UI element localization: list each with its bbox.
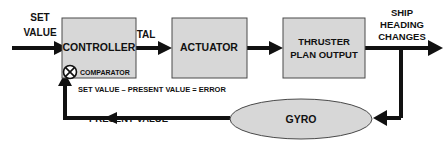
edge-ship-heading xyxy=(365,40,443,126)
block-gyro: GYRO xyxy=(230,99,372,139)
comparator-equation: SET VALUE – PRESENT VALUE = ERROR xyxy=(78,85,226,94)
block-thruster-plan-output: THRUSTER PLAN OUTPUT xyxy=(283,18,365,78)
ship-heading-label-line3: CHANGES xyxy=(378,31,426,42)
tal-label: TAL xyxy=(137,29,156,40)
ship-heading-label-line1: SHIP xyxy=(391,7,414,18)
actuator-label: ACTUATOR xyxy=(180,41,238,53)
thruster-label-line2: PLAN OUTPUT xyxy=(290,49,358,60)
feedback-label: PRESENT VALUE xyxy=(89,113,168,124)
set-value-label-line2: VALUE xyxy=(23,27,56,38)
actuator-thruster-arrowhead xyxy=(269,41,283,55)
ship-heading-label-line2: HEADING xyxy=(380,19,424,30)
thruster-label-line1: THRUSTER xyxy=(298,36,350,47)
gyro-label: GYRO xyxy=(286,113,317,125)
edge-set-value xyxy=(12,41,68,55)
diagram-canvas: CONTROLLER ACTUATOR THRUSTER PLAN OUTPUT… xyxy=(0,0,446,150)
controller-label: CONTROLLER xyxy=(63,41,136,53)
block-actuator: ACTUATOR xyxy=(172,18,247,78)
gyro-input-arrowhead xyxy=(373,110,387,126)
comparator-label: COMPARATOR xyxy=(80,69,130,76)
set-value-label-line1: SET xyxy=(30,12,49,23)
block-diagram: CONTROLLER ACTUATOR THRUSTER PLAN OUTPUT… xyxy=(0,0,446,150)
edge-tal xyxy=(136,41,172,55)
edge-actuator-to-thruster xyxy=(247,41,283,55)
ship-heading-arrowhead xyxy=(428,40,443,56)
tal-arrowhead xyxy=(158,41,172,55)
